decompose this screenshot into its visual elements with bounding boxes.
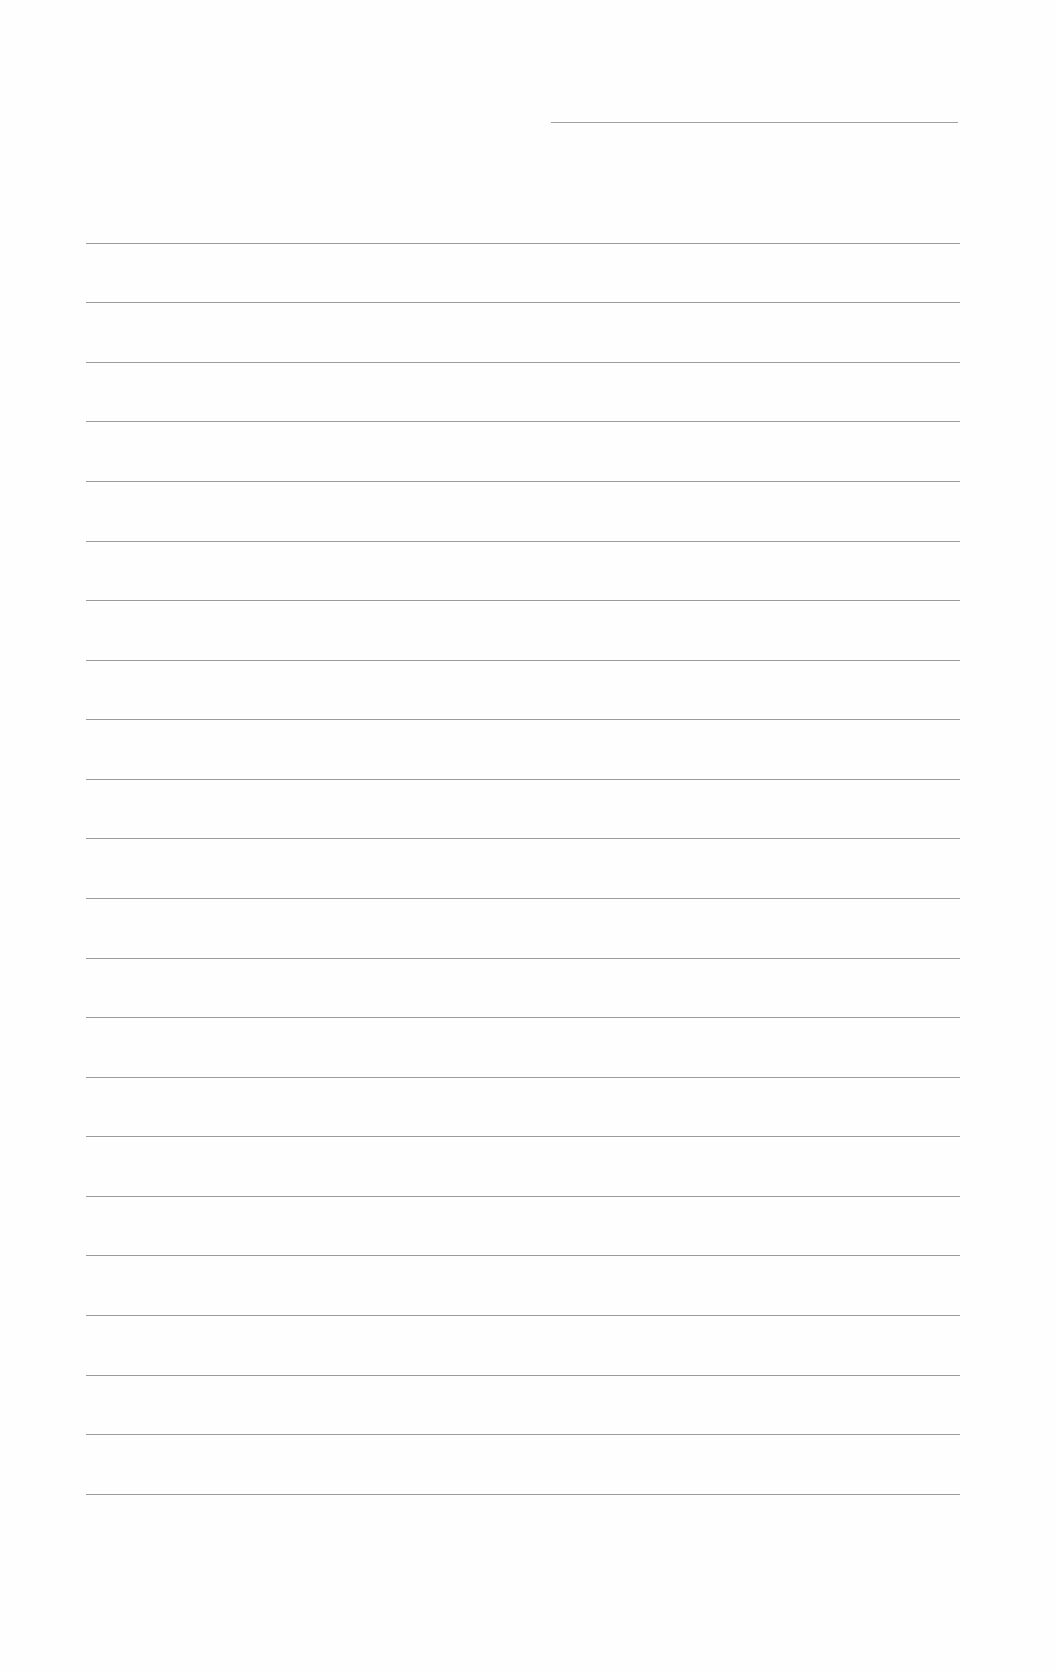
header-rule-line [551, 122, 958, 123]
rule-line [86, 1255, 960, 1256]
rule-line [86, 1196, 960, 1197]
rule-line [86, 481, 960, 482]
rule-line [86, 779, 960, 780]
rule-line [86, 838, 960, 839]
rule-line [86, 1017, 960, 1018]
rule-line [86, 958, 960, 959]
rule-line [86, 302, 960, 303]
rule-line [86, 660, 960, 661]
rule-line [86, 1077, 960, 1078]
rule-line [86, 1136, 960, 1137]
rule-line [86, 719, 960, 720]
rule-line [86, 1315, 960, 1316]
rule-line [86, 898, 960, 899]
rule-line [86, 1434, 960, 1435]
ruled-page [0, 0, 1056, 1672]
rule-line [86, 1494, 960, 1495]
rule-line [86, 600, 960, 601]
rule-line [86, 421, 960, 422]
rule-line [86, 243, 960, 244]
rule-line [86, 541, 960, 542]
rule-line [86, 1375, 960, 1376]
rule-line [86, 362, 960, 363]
